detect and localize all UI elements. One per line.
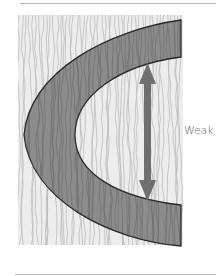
- bottom-divider: [15, 274, 216, 275]
- curved-wood-diagram: [0, 0, 216, 276]
- weak-label: Weak: [184, 124, 213, 137]
